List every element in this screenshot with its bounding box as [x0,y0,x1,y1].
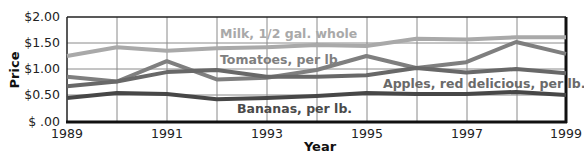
y-axis-ticks: $2.00 $1.50 $1.00 $0.50 $ .00 [24,9,60,129]
x-tick-label: 1997 [451,126,483,141]
x-tick-label: 1993 [251,126,283,141]
series-label-apples: Apples, red delicious, per lb. [383,76,584,91]
y-tick-label: $1.50 [24,35,60,50]
x-tick-label: 1989 [51,126,83,141]
x-tick-label: 1995 [351,126,383,141]
x-axis-title: Year [303,139,337,154]
x-tick-label: 1999 [550,126,582,141]
y-tick-label: $2.00 [24,9,60,24]
y-tick-label: $0.50 [24,87,60,102]
x-tick-label: 1991 [151,126,183,141]
y-tick-label: $1.00 [24,61,60,76]
series-label-tomatoes: Tomatoes, per lb. [220,52,342,67]
series-label-bananas: Bananas, per lb. [237,101,352,116]
series-label-milk: Milk, 1/2 gal. whole [220,26,357,41]
price-line-chart: $2.00 $1.50 $1.00 $0.50 $ .00 1989 1991 … [0,0,584,155]
y-axis-title: Price [7,51,22,88]
